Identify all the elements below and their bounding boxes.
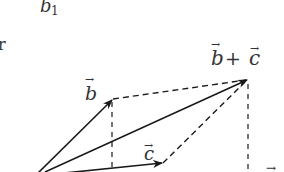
label-vector-b: b → [85, 73, 97, 104]
svg-text:b: b [40, 0, 52, 16]
label-r-partial: r [0, 35, 6, 54]
vector-arrow-accent-icon: → [144, 139, 153, 152]
vector-arrow-accent-icon: → [250, 42, 259, 55]
vector-arrow-accent-icon: → [85, 73, 94, 86]
vector-arrow-accent-icon: → [211, 38, 220, 51]
dashed-c-to-sum [163, 82, 245, 163]
label-bottom-right-partial: → [266, 161, 276, 172]
svg-text:1: 1 [51, 4, 59, 18]
vector-b-arrow [35, 100, 112, 172]
label-b1-partial: b 1 [40, 0, 59, 18]
svg-text:+: + [225, 47, 241, 69]
label-vector-c: c → [144, 139, 154, 164]
vector-diagram: b 1 r b → c → b → + c → → [0, 0, 284, 172]
label-vector-sum: b → + c → [211, 38, 260, 70]
